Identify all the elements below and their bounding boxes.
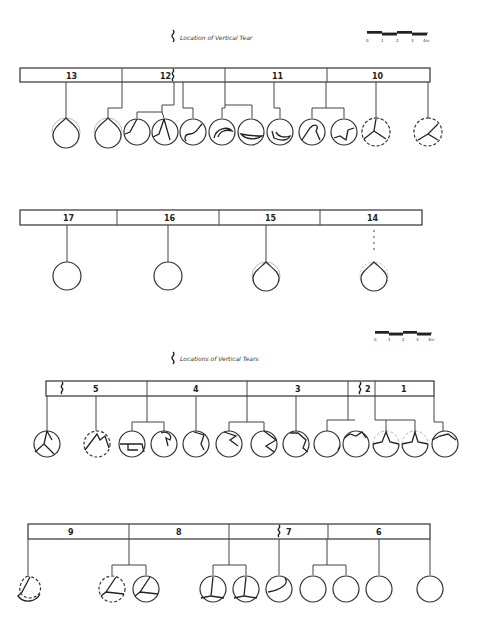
section-circle: [238, 119, 264, 145]
top-row2-bar: 17 16 15 14: [20, 210, 422, 225]
top-scale-bar: 0 1 2 3 4m: [366, 31, 430, 43]
section-circle: [133, 576, 159, 602]
wavy-line-icon: [172, 352, 174, 364]
bottom-row1-leaders: [47, 396, 443, 432]
section-circle: [18, 576, 41, 601]
section-circle: [300, 576, 326, 602]
bottom-row1-sections: [34, 431, 458, 457]
segment-label: 14: [367, 214, 379, 223]
bottom-row1-bar: 5 4 3 2 1: [46, 381, 434, 396]
section-circle: [343, 431, 369, 457]
svg-text:4m: 4m: [423, 38, 430, 43]
svg-text:3: 3: [416, 337, 419, 342]
section-circle: [331, 119, 357, 145]
section-circle: [233, 576, 259, 602]
segment-label: 9: [68, 528, 74, 537]
bottom-row2-sections: [18, 576, 443, 602]
section-circle: [251, 431, 277, 457]
top-row1-leaders: [66, 82, 428, 118]
top-row1-bar: 13 12 11 10: [20, 68, 430, 82]
section-circle: [266, 576, 292, 602]
bottom-legend: Locations of Vertical Tears: [172, 352, 259, 364]
section-circle: [53, 262, 81, 290]
svg-text:1: 1: [388, 337, 391, 342]
bottom-row2-bar: 9 8 7 6: [28, 524, 430, 539]
section-circle: [99, 576, 125, 602]
segment-label: 3: [295, 385, 301, 394]
section-circle: [216, 431, 242, 457]
section-circle: [402, 431, 428, 457]
vertical-tear-diagram: Location of Vertical Tear 0 1 2 3 4m 13 …: [0, 0, 482, 632]
section-circle: [84, 431, 110, 457]
section-circle: [417, 576, 443, 602]
section-circle: [360, 262, 388, 291]
segment-label: 12: [160, 72, 171, 81]
section-circle: [34, 431, 60, 457]
segment-label: 1: [401, 385, 407, 394]
section-circle: [124, 119, 150, 145]
segment-label: 5: [93, 385, 99, 394]
bottom-scale-bar: 0 1 2 3 4m: [374, 331, 435, 342]
section-circle: [299, 119, 325, 145]
section-circle: [180, 119, 206, 145]
section-circle: [209, 119, 235, 145]
bottom-row2-leaders: [28, 539, 430, 575]
section-circle: [252, 262, 280, 291]
segment-label: 16: [164, 214, 176, 223]
segment-label: 15: [265, 214, 277, 223]
section-circle: [151, 431, 177, 457]
section-circle: [267, 119, 293, 145]
legend-text: Location of Vertical Tear: [180, 34, 253, 41]
top-row2-leaders: [67, 225, 374, 262]
section-circle: [362, 118, 390, 146]
svg-text:1: 1: [381, 38, 384, 43]
section-circle: [52, 118, 80, 148]
segment-label: 6: [376, 528, 382, 537]
segment-label: 11: [272, 72, 284, 81]
section-circle: [154, 262, 182, 290]
wavy-line-icon: [172, 30, 174, 42]
section-circle: [152, 119, 178, 145]
svg-text:2: 2: [396, 38, 399, 43]
segment-label: 17: [63, 214, 74, 223]
segment-label: 10: [372, 72, 384, 81]
section-circle: [94, 118, 122, 148]
top-row1-sections: [52, 118, 442, 148]
svg-text:3: 3: [411, 38, 414, 43]
svg-text:0: 0: [366, 38, 369, 43]
svg-text:4m: 4m: [428, 337, 435, 342]
section-circle: [432, 431, 458, 457]
section-circle: [314, 431, 340, 457]
svg-text:2: 2: [402, 337, 405, 342]
segment-label: 8: [176, 528, 182, 537]
segment-label: 2: [365, 385, 371, 394]
section-circle: [366, 576, 392, 602]
section-circle: [200, 576, 226, 602]
section-circle: [414, 118, 442, 146]
top-legend: Location of Vertical Tear: [172, 30, 253, 42]
top-row2-sections: [53, 262, 388, 291]
section-circle: [283, 431, 309, 457]
section-circle: [333, 576, 359, 602]
section-circle: [373, 431, 399, 457]
section-circle: [183, 431, 209, 457]
segment-label: 7: [286, 528, 292, 537]
section-circle: [119, 431, 145, 457]
segment-label: 13: [66, 72, 77, 81]
svg-text:0: 0: [374, 337, 377, 342]
legend-text: Locations of Vertical Tears: [180, 355, 259, 362]
segment-label: 4: [193, 385, 199, 394]
